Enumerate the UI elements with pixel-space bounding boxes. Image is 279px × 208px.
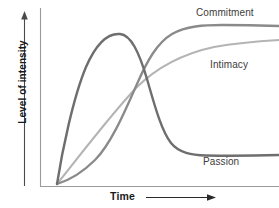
chart-canvas: [0, 0, 279, 208]
series-label-intimacy: Intimacy: [210, 59, 248, 70]
curve-commitment: [57, 25, 279, 184]
series-label-passion: Passion: [203, 156, 239, 167]
curve-passion: [57, 34, 279, 184]
y-axis-label: Level of intensity: [12, 22, 32, 142]
x-axis-label: Time: [110, 190, 135, 202]
chart-container: Level of intensity Time Commitment Intim…: [0, 0, 279, 208]
x-axis-arrow: [146, 194, 216, 201]
series-label-commitment: Commitment: [196, 7, 254, 18]
y-axis-label-text: Level of intensity: [17, 40, 28, 124]
